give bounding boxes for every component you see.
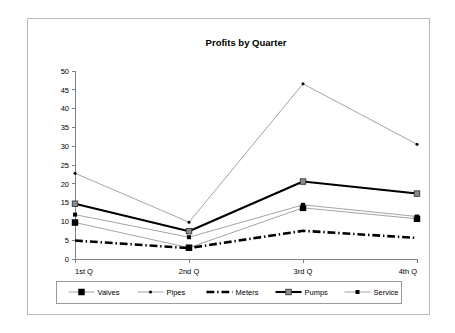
legend-label-pipes: Pipes (167, 288, 186, 297)
y-tick-label: 15 (61, 198, 69, 207)
y-tick-label: 50 (61, 67, 69, 76)
series-pumps (72, 179, 420, 234)
series-pumps-point-1-marker (186, 228, 192, 234)
y-tick-label: 25 (61, 161, 69, 170)
legend-swatch-valves-marker (78, 289, 85, 296)
series-line-service (75, 205, 417, 237)
legend-swatch-pumps-marker (286, 289, 292, 295)
y-tick-label: 10 (61, 217, 69, 226)
series-pipes (74, 82, 419, 223)
x-tick-label: 4th Q (399, 267, 418, 276)
series-valves-point-0-marker (72, 219, 79, 226)
legend-swatch-pipes-marker (149, 291, 152, 294)
series-line-valves (75, 208, 417, 248)
legend-label-service: Service (374, 288, 399, 297)
series-line-meters (75, 231, 417, 248)
series-service-point-2-marker (301, 203, 305, 207)
chart-title: Profits by Quarter (206, 37, 287, 48)
y-tick-label: 20 (61, 180, 69, 189)
profits-by-quarter-chart: Profits by Quarter051015202530354045501s… (28, 19, 429, 314)
series-pipes-point-0-marker (74, 172, 77, 175)
legend-label-meters: Meters (236, 288, 259, 297)
series-line-pumps (75, 182, 417, 232)
series-pumps-point-2-marker (300, 179, 306, 185)
series-service-point-3-marker (415, 215, 419, 219)
y-tick-label: 0 (65, 255, 69, 264)
y-tick-label: 30 (61, 142, 69, 151)
legend-label-valves: Valves (98, 288, 120, 297)
chart-frame: Profits by Quarter051015202530354045501s… (27, 18, 430, 315)
series-pipes-point-1-marker (188, 221, 191, 224)
series-line-pipes (75, 84, 417, 222)
legend-swatch-service-marker (356, 290, 360, 294)
y-tick-label: 45 (61, 86, 69, 95)
x-tick-label: 3rd Q (294, 267, 313, 276)
x-tick-label: 2nd Q (179, 267, 200, 276)
series-pipes-point-3-marker (416, 143, 419, 146)
y-tick-label: 35 (61, 123, 69, 132)
x-tick-label: 1st Q (75, 267, 93, 276)
y-tick-label: 5 (65, 236, 69, 245)
series-pumps-point-0-marker (72, 201, 78, 207)
series-meters (75, 231, 417, 248)
series-service-point-1-marker (187, 235, 191, 239)
series-service-point-0-marker (73, 213, 77, 217)
y-tick-label: 40 (61, 104, 69, 113)
series-pipes-point-2-marker (302, 82, 305, 85)
legend-label-pumps: Pumps (305, 288, 329, 297)
series-pumps-point-3-marker (414, 191, 420, 197)
